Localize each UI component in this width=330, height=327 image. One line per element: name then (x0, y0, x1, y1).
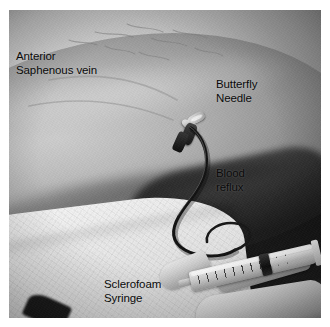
clinical-photograph-figure: Anterior Saphenous vein Butterfly Needle… (0, 0, 330, 327)
label-anterior-saphenous-vein: Anterior Saphenous vein (16, 50, 97, 77)
label-butterfly-needle: Butterfly Needle (216, 78, 257, 105)
label-sclerofoam-syringe: Sclerofoam Syringe (104, 278, 161, 305)
label-blood-reflux: Blood reflux (216, 167, 245, 194)
